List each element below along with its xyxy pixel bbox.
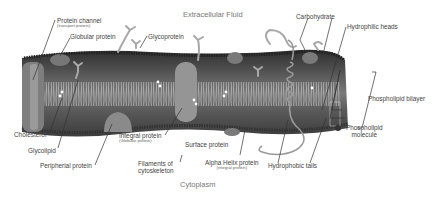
alpha-helix-sub: (integral protein) bbox=[205, 166, 259, 171]
phospholipid-bilayer-label: Phospholipid bilayer bbox=[368, 95, 425, 102]
hydrophilic-heads-label: Hydrophilic heads bbox=[347, 23, 398, 30]
phospholipid-molecule-label: Phospholipid molecule bbox=[346, 124, 383, 138]
filaments-label: Filaments of cytoskeleton bbox=[138, 160, 174, 174]
alpha-helix-label: Alpha Helix protein (integral protein) bbox=[205, 159, 259, 171]
cytoplasm-label: Cytoplasm bbox=[180, 181, 215, 189]
integral-protein-sub: (Globular protein) bbox=[119, 139, 162, 144]
protein-channel-label: Protein channel (transport protein) bbox=[57, 17, 101, 29]
filaments-line2: cytoskeleton bbox=[138, 167, 174, 174]
glycoprotein-label: Glycoprotein bbox=[148, 33, 184, 40]
surface-protein-shape-2 bbox=[302, 52, 318, 64]
peripheral-protein-label: Peripherial protein bbox=[40, 162, 92, 169]
extracellular-fluid-label: Extracellular Fluid bbox=[183, 11, 243, 19]
surface-protein-label: Surface protein bbox=[185, 141, 228, 148]
hydrophobic-tails-label: Hydrophobic tails bbox=[268, 162, 317, 169]
surface-protein-shape bbox=[227, 52, 243, 64]
integral-protein-label: Integral protein (Globular protein) bbox=[119, 132, 162, 144]
filaments-line1: Filaments of bbox=[138, 160, 173, 167]
surface-protein-shape-3 bbox=[224, 128, 240, 136]
protein-channel-sub: (transport protein) bbox=[57, 24, 101, 29]
globular-protein-label: Globular protein bbox=[70, 33, 115, 40]
phospholipid-molecule-line1: Phospholipid bbox=[346, 124, 383, 131]
integral-protein-shape bbox=[175, 62, 197, 122]
protein-channel-shape bbox=[22, 62, 44, 132]
phospholipid-molecule-line2: molecule bbox=[352, 131, 378, 138]
phospholipid-head bbox=[335, 125, 341, 131]
carbohydrate-label: Carbohydrate bbox=[296, 13, 335, 20]
cholesterol-label: Cholesterol bbox=[14, 131, 46, 138]
glycolipid-label: Glycolipid bbox=[28, 147, 56, 154]
